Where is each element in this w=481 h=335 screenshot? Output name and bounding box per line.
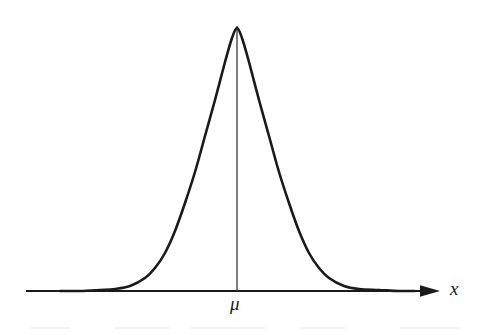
scan-artifact [115, 327, 170, 329]
mean-label: μ [230, 294, 240, 313]
scan-artifact [400, 327, 460, 329]
x-axis-label: x [450, 279, 458, 298]
scan-artifact [30, 327, 70, 329]
normal-distribution-figure: x μ [0, 0, 481, 335]
arrow-right-icon [420, 285, 440, 297]
scan-artifact [300, 327, 345, 329]
scan-artifact [190, 327, 265, 329]
plot-canvas [0, 0, 481, 335]
